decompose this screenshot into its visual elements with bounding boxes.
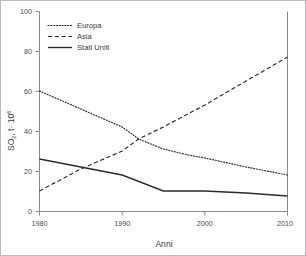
y-tick-label-100: 100: [20, 7, 32, 16]
series-line-asia: [40, 57, 288, 191]
y-axis-title-base: SO: [6, 138, 16, 151]
y-tick-label-80: 80: [24, 47, 32, 56]
chart-figure-frame: 0 20 40 60 80 100 1980 1990 2000 2010: [0, 0, 306, 256]
x-axis-ticks: [40, 212, 288, 216]
y-axis-tick-labels: 0 20 40 60 80 100: [20, 7, 32, 216]
y-tick-label-40: 40: [24, 127, 32, 136]
x-tick-label-2000: 2000: [197, 219, 213, 228]
series-line-stati-uniti: [40, 159, 288, 196]
y-tick-label-0: 0: [28, 207, 32, 216]
x-tick-label-1980: 1980: [32, 219, 48, 228]
series-line-europa: [40, 91, 288, 175]
x-tick-label-2010: 2010: [277, 219, 293, 228]
so2-emissions-line-chart: 0 20 40 60 80 100 1980 1990 2000 2010: [1, 1, 306, 256]
legend-label-asia: Asia: [77, 32, 93, 41]
chart-legend: Europa Asia Stati Uniti: [48, 21, 110, 52]
chart-plot-wrapper: 0 20 40 60 80 100 1980 1990 2000 2010: [1, 1, 306, 256]
legend-label-stati-uniti: Stati Uniti: [77, 43, 110, 52]
y-axis-title: SO2, t· 106: [6, 111, 17, 151]
x-axis-title: Anni: [155, 239, 172, 249]
y-tick-label-60: 60: [24, 87, 32, 96]
y-axis-ticks: [36, 12, 40, 212]
y-axis-title-mid: , t· 10: [6, 114, 16, 136]
svg-text:SO2, t· 106: SO2, t· 106: [6, 111, 17, 151]
y-axis-title-superscript: 6: [6, 111, 12, 114]
y-tick-label-20: 20: [24, 167, 32, 176]
x-tick-label-1990: 1990: [114, 219, 130, 228]
legend-label-europa: Europa: [77, 21, 102, 30]
x-axis-tick-labels: 1980 1990 2000 2010: [32, 219, 294, 228]
